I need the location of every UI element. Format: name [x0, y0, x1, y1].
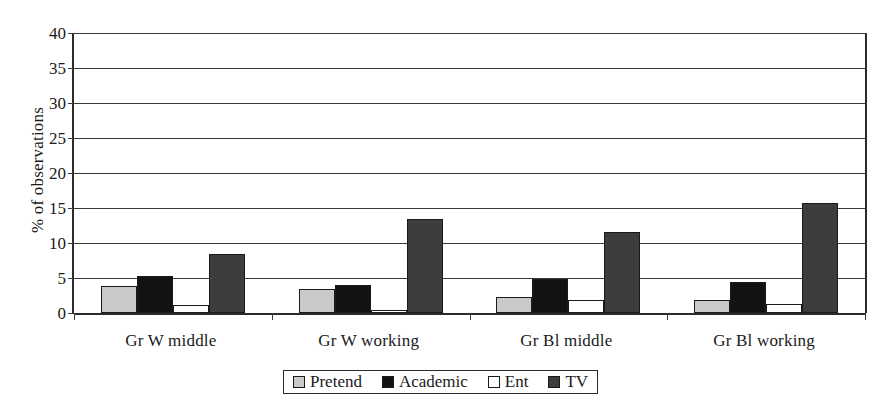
legend-label: Academic [399, 373, 468, 390]
x-tick-mark [667, 313, 668, 320]
bar-tv [209, 254, 245, 314]
y-tick-label-10: 10 [22, 235, 66, 252]
bar-ent [371, 310, 407, 314]
legend-item-academic[interactable]: Academic [382, 373, 468, 390]
x-category-label: Gr W working [318, 331, 419, 351]
bar-pretend [101, 286, 137, 313]
bar-pretend [694, 300, 730, 313]
bar-tv [407, 219, 443, 314]
legend-label: Ent [505, 373, 529, 390]
bar-group [299, 33, 443, 313]
legend-swatch-pretend [293, 376, 305, 388]
x-tick-mark [865, 313, 866, 320]
bar-tv [802, 203, 838, 313]
legend-item-pretend[interactable]: Pretend [293, 373, 362, 390]
y-tick-label-15: 15 [22, 200, 66, 217]
bar-ent [568, 300, 604, 313]
legend-item-ent[interactable]: Ent [488, 373, 529, 390]
x-category-label: Gr W middle [125, 331, 216, 351]
y-tick-label-30: 30 [22, 95, 66, 112]
bar-group [101, 33, 245, 313]
legend-label: Pretend [310, 373, 362, 390]
x-category-label: Gr Bl working [713, 331, 815, 351]
chart-legend: PretendAcademicEntTV [283, 370, 598, 394]
legend-item-tv[interactable]: TV [548, 373, 588, 390]
bar-pretend [299, 289, 335, 314]
bar-ent [766, 304, 802, 313]
legend-swatch-tv [548, 376, 560, 388]
bar-academic [730, 282, 766, 314]
bar-group [496, 33, 640, 313]
bar-academic [335, 285, 371, 313]
plot-area: 0510152025303540 [72, 33, 867, 313]
y-tick-label-5: 5 [22, 270, 66, 287]
bar-pretend [496, 297, 532, 313]
y-tick-label-0: 0 [22, 305, 66, 322]
legend-swatch-academic [382, 376, 394, 388]
bar-chart-figure: % of observations 0510152025303540 Gr W … [0, 0, 890, 415]
bar-ent [173, 305, 209, 313]
x-tick-mark [74, 313, 75, 320]
x-tick-mark [470, 313, 471, 320]
x-tick-mark [272, 313, 273, 320]
x-category-label: Gr Bl middle [520, 331, 612, 351]
legend-label: TV [565, 373, 588, 390]
bar-tv [604, 232, 640, 313]
bar-academic [532, 279, 568, 313]
y-tick-label-20: 20 [22, 165, 66, 182]
bar-academic [137, 276, 173, 313]
bar-group [694, 33, 838, 313]
y-tick-label-35: 35 [22, 60, 66, 77]
y-tick-label-25: 25 [22, 130, 66, 147]
legend-swatch-ent [488, 376, 500, 388]
y-tick-label-40: 40 [22, 25, 66, 42]
bars-layer [74, 33, 865, 313]
